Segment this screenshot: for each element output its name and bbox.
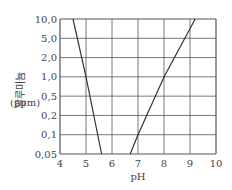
y-tick-label: 2,0 — [41, 52, 57, 63]
y-tick-label: 1,0 — [41, 71, 57, 82]
x-tick-label: 10 — [210, 158, 223, 169]
y-tick-labels: 10,05,02,01,00,50,20,10,05 — [35, 14, 57, 160]
x-tick-label: 5 — [83, 158, 89, 169]
line-acidic-branch — [73, 19, 102, 154]
x-tick-label: 8 — [161, 158, 167, 169]
x-tick-label: 6 — [109, 158, 115, 169]
x-tick-labels: 45678910 — [57, 158, 223, 169]
x-tick-label: 9 — [187, 158, 193, 169]
y-axis-unit: (ppm) — [10, 97, 40, 108]
x-tick-label: 4 — [57, 158, 63, 169]
y-tick-label: 0,1 — [41, 129, 57, 140]
x-axis-title: pH — [130, 171, 145, 182]
y-tick-label: 0,05 — [35, 149, 57, 160]
y-tick-label: 0,2 — [41, 110, 57, 121]
y-tick-label: 5,0 — [41, 33, 57, 44]
y-tick-label: 0,5 — [41, 91, 57, 102]
line-alkaline-branch — [130, 19, 195, 154]
data-lines — [73, 19, 195, 154]
y-tick-label: 10,0 — [35, 14, 57, 25]
chart: 10,05,02,01,00,50,20,10,05 45678910 pH 알… — [0, 0, 232, 190]
x-tick-label: 7 — [135, 158, 141, 169]
